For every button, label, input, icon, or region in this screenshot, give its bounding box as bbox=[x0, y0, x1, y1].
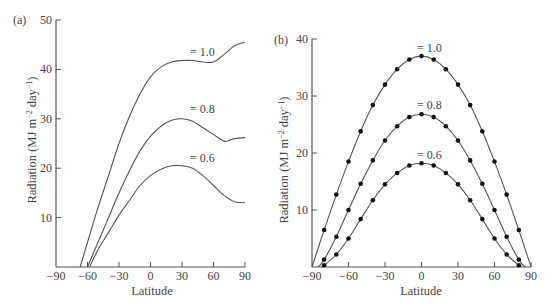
y-tick: 30 bbox=[296, 89, 317, 103]
svg-text:10: 10 bbox=[40, 211, 52, 225]
svg-text:30: 30 bbox=[176, 269, 188, 283]
data-point-marker bbox=[395, 124, 400, 129]
data-point-marker bbox=[517, 257, 522, 262]
data-point-marker bbox=[358, 181, 363, 186]
y-tick: 10 bbox=[40, 211, 61, 225]
svg-text:20: 20 bbox=[296, 146, 308, 160]
svg-text:20: 20 bbox=[40, 161, 52, 175]
data-point-marker bbox=[444, 67, 449, 72]
data-point-marker bbox=[444, 124, 449, 129]
panel-b-curve-label: = 1.0 bbox=[417, 41, 442, 55]
x-tick: 90 bbox=[525, 262, 537, 283]
x-tick: −60 bbox=[339, 262, 358, 283]
x-tick: −30 bbox=[376, 262, 395, 283]
data-point-marker bbox=[322, 263, 327, 268]
panel-a-x-axis-label: Latitude bbox=[131, 284, 173, 298]
panel-b-x-axis-label: Latitude bbox=[400, 284, 442, 298]
x-tick: −90 bbox=[47, 269, 66, 283]
data-point-marker bbox=[346, 159, 351, 164]
data-point-marker bbox=[431, 57, 436, 62]
data-point-marker bbox=[383, 82, 388, 87]
svg-text:0: 0 bbox=[419, 269, 425, 283]
svg-text:30: 30 bbox=[40, 112, 52, 126]
y-tick: 40 bbox=[296, 32, 317, 46]
x-tick: 60 bbox=[489, 262, 501, 283]
x-tick: 30 bbox=[176, 262, 188, 283]
data-point-marker bbox=[480, 129, 485, 134]
y-tick: 40 bbox=[40, 62, 61, 76]
data-point-marker bbox=[358, 129, 363, 134]
data-point-marker bbox=[322, 228, 327, 233]
data-point-marker bbox=[407, 57, 412, 62]
data-point-marker bbox=[504, 252, 509, 257]
data-point-marker bbox=[383, 138, 388, 143]
data-point-marker bbox=[504, 192, 509, 197]
panel-b-chart: (b) −90−60−30030609010203040 Latitude Ra… bbox=[274, 32, 537, 298]
data-point-marker bbox=[358, 217, 363, 222]
data-point-marker bbox=[346, 236, 351, 241]
data-point-marker bbox=[371, 158, 376, 163]
data-point-marker bbox=[334, 252, 339, 257]
x-tick: 90 bbox=[239, 262, 251, 283]
data-point-marker bbox=[480, 217, 485, 222]
data-point-marker bbox=[517, 263, 522, 268]
series-line-08 bbox=[318, 114, 525, 267]
data-point-marker bbox=[480, 181, 485, 186]
y-tick: 50 bbox=[40, 13, 61, 27]
svg-text:90: 90 bbox=[239, 269, 251, 283]
data-point-marker bbox=[492, 208, 497, 213]
series-line-06 bbox=[322, 163, 522, 267]
svg-text:0: 0 bbox=[148, 269, 154, 283]
data-point-marker bbox=[407, 115, 412, 120]
svg-text:30: 30 bbox=[452, 269, 464, 283]
data-point-marker bbox=[334, 234, 339, 239]
data-point-marker bbox=[419, 112, 424, 117]
panel-a-curve-label: = 1.0 bbox=[190, 45, 215, 59]
data-point-marker bbox=[431, 163, 436, 168]
x-tick: 0 bbox=[148, 262, 154, 283]
svg-text:−30: −30 bbox=[110, 269, 129, 283]
data-point-marker bbox=[504, 234, 509, 239]
series-line-06 bbox=[90, 165, 245, 267]
panel-a-series bbox=[80, 42, 245, 267]
y-tick: 30 bbox=[40, 112, 61, 126]
panel-a-curve-label: = 0.6 bbox=[190, 151, 215, 165]
data-point-marker bbox=[407, 163, 412, 168]
panel-a-axes: −90−60−3003060901020304050 bbox=[40, 13, 251, 283]
svg-text:50: 50 bbox=[40, 13, 52, 27]
data-point-marker bbox=[456, 182, 461, 187]
series-line-10 bbox=[80, 42, 245, 267]
data-point-marker bbox=[371, 103, 376, 108]
svg-text:10: 10 bbox=[296, 203, 308, 217]
svg-text:−90: −90 bbox=[303, 269, 322, 283]
data-point-marker bbox=[468, 158, 473, 163]
panel-a-curve-label: = 0.8 bbox=[190, 102, 215, 116]
data-point-marker bbox=[346, 208, 351, 213]
data-point-marker bbox=[468, 198, 473, 203]
panel-b-curve-label: = 0.6 bbox=[417, 148, 442, 162]
svg-text:60: 60 bbox=[208, 269, 220, 283]
data-point-marker bbox=[395, 67, 400, 72]
panel-b-y-axis-label: Radiation (MJ m−2 day−1) bbox=[277, 96, 292, 223]
y-tick: 20 bbox=[40, 161, 61, 175]
x-tick: 60 bbox=[208, 262, 220, 283]
data-point-marker bbox=[444, 171, 449, 176]
panel-a-y-axis-label: Radiation (MJ m−2 day−1) bbox=[25, 76, 40, 203]
x-tick: 0 bbox=[419, 262, 425, 283]
x-tick: 30 bbox=[452, 262, 464, 283]
panel-b-curve-label: = 0.8 bbox=[417, 98, 442, 112]
x-tick: −90 bbox=[303, 269, 322, 283]
svg-text:60: 60 bbox=[489, 269, 501, 283]
svg-text:−30: −30 bbox=[376, 269, 395, 283]
data-point-marker bbox=[517, 228, 522, 233]
svg-text:90: 90 bbox=[525, 269, 537, 283]
panel-a-chart: (a) −90−60−3003060901020304050 Latitude … bbox=[13, 13, 251, 298]
data-point-marker bbox=[492, 236, 497, 241]
svg-text:40: 40 bbox=[40, 62, 52, 76]
data-point-marker bbox=[431, 115, 436, 120]
y-tick: 20 bbox=[296, 146, 317, 160]
data-point-marker bbox=[334, 192, 339, 197]
data-point-marker bbox=[492, 159, 497, 164]
data-point-marker bbox=[456, 138, 461, 143]
panel-a-label: (a) bbox=[13, 13, 26, 27]
